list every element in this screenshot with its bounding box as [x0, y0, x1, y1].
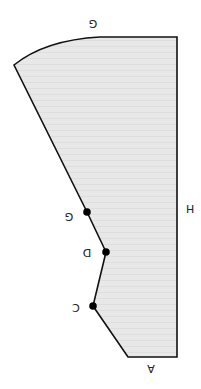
- point-d-dot: [102, 248, 110, 256]
- point-c-dot: [89, 302, 97, 310]
- label-point-d: D: [83, 246, 91, 259]
- point-g-dot: [83, 208, 91, 216]
- label-bottom-a: A: [147, 362, 155, 375]
- label-point-c: C: [72, 301, 80, 314]
- geometry-diagram: G G D C H A: [0, 0, 201, 389]
- label-side-h: H: [186, 202, 194, 215]
- label-point-g: G: [65, 210, 74, 223]
- label-top-g: G: [89, 17, 98, 30]
- shaded-region: [14, 37, 177, 357]
